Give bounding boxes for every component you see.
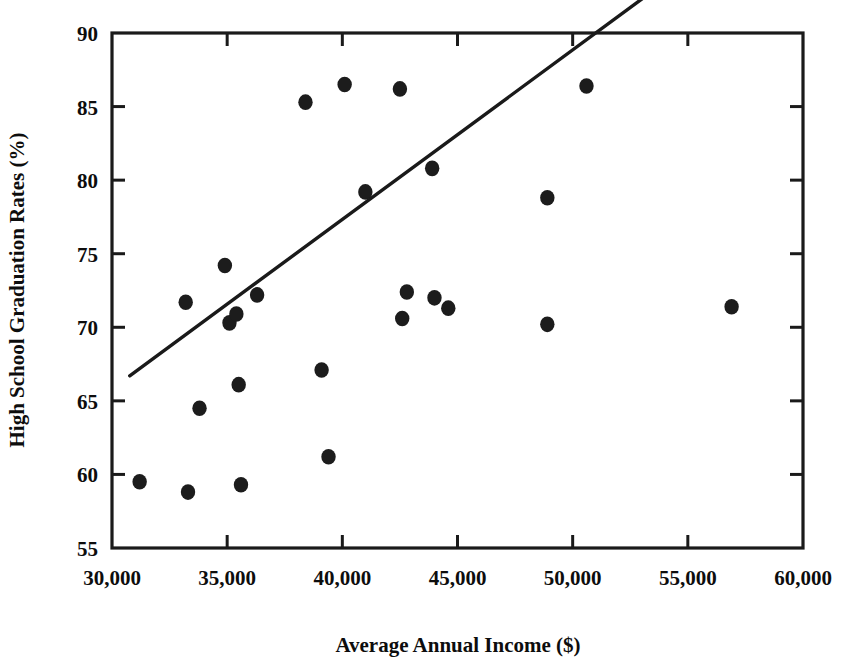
x-tick-label: 55,000: [659, 566, 717, 590]
data-point: [395, 311, 409, 327]
data-point: [393, 81, 407, 97]
y-axis-tick-labels: 5560657075808590: [77, 22, 98, 561]
plot-canvas: 30,00035,00040,00045,00050,00055,00060,0…: [0, 0, 857, 666]
y-axis-title: High School Graduation Rates (%): [5, 132, 29, 447]
x-tick-label: 45,000: [429, 566, 487, 590]
data-point: [250, 287, 264, 303]
y-tick-label: 85: [77, 96, 98, 120]
data-point: [540, 190, 554, 206]
trend-line-group: [130, 0, 720, 376]
x-tick-label: 50,000: [544, 566, 602, 590]
plot-frame: [112, 33, 803, 548]
y-tick-label: 65: [77, 390, 98, 414]
y-tick-label: 55: [77, 537, 98, 561]
data-point: [724, 299, 738, 315]
x-tick-label: 35,000: [198, 566, 256, 590]
x-axis-tick-labels: 30,00035,00040,00045,00050,00055,00060,0…: [83, 566, 832, 590]
data-point: [425, 161, 439, 177]
x-axis-title: Average Annual Income ($): [335, 633, 580, 657]
x-axis-ticks: [227, 33, 688, 548]
data-point: [298, 94, 312, 110]
y-tick-label: 80: [77, 169, 98, 193]
data-point: [132, 474, 146, 490]
data-points-group: [132, 77, 738, 500]
data-point: [218, 258, 232, 274]
x-tick-label: 60,000: [774, 566, 832, 590]
regression-line: [130, 0, 720, 376]
scatter-plot-figure: 30,00035,00040,00045,00050,00055,00060,0…: [0, 0, 857, 666]
y-tick-label: 90: [77, 22, 98, 46]
x-tick-label: 40,000: [313, 566, 371, 590]
plot-border: [112, 33, 803, 548]
data-point: [192, 400, 206, 416]
data-point: [441, 300, 455, 316]
data-point: [229, 306, 243, 322]
y-axis-ticks: [112, 107, 803, 475]
y-tick-label: 70: [77, 316, 98, 340]
data-point: [337, 77, 351, 93]
data-point: [579, 78, 593, 94]
data-point: [314, 362, 328, 378]
y-tick-label: 60: [77, 463, 98, 487]
data-point: [234, 477, 248, 493]
data-point: [400, 284, 414, 300]
data-point: [427, 290, 441, 306]
y-tick-label: 75: [77, 243, 98, 267]
x-tick-label: 30,000: [83, 566, 141, 590]
data-point: [181, 484, 195, 500]
data-point: [231, 377, 245, 393]
data-point: [321, 449, 335, 465]
data-point: [540, 317, 554, 333]
data-point: [179, 294, 193, 310]
